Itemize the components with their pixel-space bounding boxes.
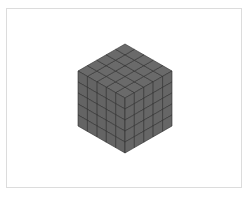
isometric-cube <box>0 0 248 199</box>
